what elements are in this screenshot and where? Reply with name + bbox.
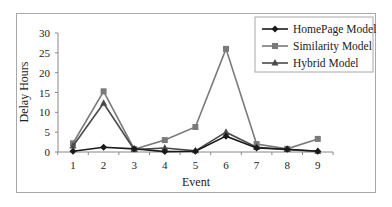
- triangle-marker: [100, 99, 107, 106]
- y-axis-title: Delay Hours: [17, 61, 31, 122]
- y-tick-label: 5: [45, 126, 51, 138]
- x-tick-label: 2: [101, 159, 107, 171]
- x-axis: 123456789: [58, 152, 333, 171]
- x-axis-title: Event: [182, 175, 211, 189]
- square-marker: [315, 136, 321, 142]
- legend-label: Hybrid Model: [293, 57, 358, 70]
- y-tick-label: 15: [39, 87, 51, 99]
- y-tick-label: 20: [39, 67, 51, 79]
- x-tick-label: 7: [254, 159, 260, 171]
- square-marker: [223, 46, 229, 52]
- square-marker: [101, 88, 107, 94]
- square-marker: [192, 124, 198, 130]
- x-tick-label: 9: [315, 159, 321, 171]
- y-axis: 051015202530: [39, 27, 58, 158]
- diamond-marker: [100, 144, 107, 151]
- diamond-marker: [70, 148, 77, 155]
- line-chart: 051015202530 123456789 Delay Hours Event…: [0, 0, 392, 207]
- legend: HomePage ModelSimilarity ModelHybrid Mod…: [255, 17, 376, 72]
- x-tick-label: 1: [70, 159, 76, 171]
- y-tick-label: 30: [39, 27, 51, 39]
- x-tick-label: 3: [131, 159, 137, 171]
- y-tick-label: 25: [39, 47, 51, 59]
- square-marker: [272, 43, 278, 49]
- x-tick-label: 5: [193, 159, 199, 171]
- x-tick-label: 8: [284, 159, 290, 171]
- x-tick-label: 4: [162, 159, 168, 171]
- y-tick-label: 10: [39, 106, 51, 118]
- square-marker: [162, 137, 168, 143]
- x-tick-label: 6: [223, 159, 229, 171]
- legend-label: Similarity Model: [293, 40, 372, 53]
- legend-label: HomePage Model: [293, 23, 376, 36]
- y-tick-label: 0: [45, 146, 51, 158]
